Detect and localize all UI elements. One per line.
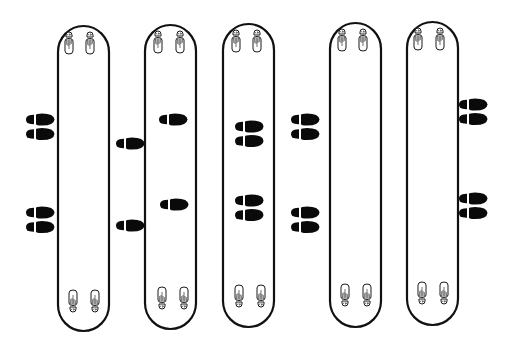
footprint-diagram	[0, 0, 515, 347]
lane-3-bottom-footprints	[235, 285, 265, 307]
lane-5-top-footprints	[414, 28, 444, 50]
bare-foot-icon	[257, 285, 265, 307]
bare-foot-icon	[69, 290, 77, 312]
shoe-pair-icon	[235, 121, 264, 148]
shoe-icon	[160, 199, 189, 211]
bare-foot-icon	[232, 30, 240, 52]
bare-foot-icon	[253, 30, 261, 52]
bare-foot-icon	[86, 32, 94, 54]
bare-foot-icon	[91, 290, 99, 312]
bare-foot-icon	[341, 284, 349, 306]
bare-foot-icon	[414, 28, 422, 50]
bare-foot-icon	[65, 32, 73, 54]
shoe-icon	[116, 138, 145, 150]
lane-3-top-footprints	[232, 30, 261, 52]
shoe-pair-icon	[291, 114, 320, 141]
lane-5	[407, 22, 458, 325]
shoe-pair-icon	[291, 207, 320, 234]
bare-foot-icon	[359, 29, 367, 51]
bare-foot-icon	[338, 29, 346, 51]
lane-2-outline	[145, 25, 196, 329]
lane-1-outline	[58, 26, 109, 331]
lane-4-bottom-footprints	[341, 284, 371, 306]
lane-4-outline	[330, 23, 381, 327]
lane-5-outline	[407, 22, 458, 325]
bare-foot-icon	[176, 31, 184, 53]
shoe-pair-icon	[26, 114, 55, 141]
bare-foot-icon	[363, 284, 371, 306]
shoe-icon	[159, 114, 188, 126]
lane-5-bottom-footprints	[418, 282, 448, 304]
bare-foot-icon	[235, 285, 243, 307]
lane-3	[223, 24, 274, 327]
lane-2	[145, 25, 196, 329]
shoe-pair-icon	[235, 195, 264, 222]
bare-foot-icon	[440, 282, 448, 304]
shoe-icon	[116, 220, 145, 232]
shoe-marks	[26, 99, 488, 234]
lane-1-top-footprints	[65, 32, 94, 54]
lane-3-outline	[223, 24, 274, 327]
lane-4	[330, 23, 381, 327]
shoe-pair-icon	[459, 193, 488, 220]
lane-2-bottom-footprints	[158, 287, 188, 309]
bare-foot-icon	[180, 287, 188, 309]
lane-1-bottom-footprints	[69, 290, 99, 312]
bare-foot-icon	[418, 282, 426, 304]
bare-foot-icon	[158, 287, 166, 309]
shoe-pair-icon	[459, 99, 488, 126]
lane-1	[58, 26, 109, 331]
bare-foot-icon	[154, 31, 162, 53]
bare-foot-icon	[436, 28, 444, 50]
lane-2-top-footprints	[154, 31, 184, 53]
shoe-pair-icon	[26, 207, 55, 234]
lane-4-top-footprints	[338, 29, 367, 51]
